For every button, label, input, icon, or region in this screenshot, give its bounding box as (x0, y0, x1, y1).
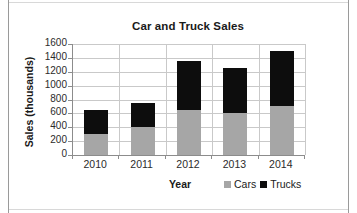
gridline-horizontal (73, 155, 305, 156)
bar-group[interactable] (223, 44, 247, 155)
x-axis-tick-label: 2011 (119, 158, 165, 170)
legend-swatch-icon (224, 181, 231, 188)
bar-segment-cars[interactable] (270, 106, 294, 155)
bar-segment-trucks[interactable] (270, 51, 294, 107)
x-axis-tick-label: 2014 (258, 158, 304, 170)
bar-group[interactable] (177, 44, 201, 155)
x-axis-tick-label: 2013 (211, 158, 257, 170)
chart-figure: Car and Truck Sales Sales (thousands) 02… (0, 0, 357, 213)
x-axis-tick-mark (165, 155, 166, 159)
y-axis-tick-label: 600 (22, 106, 67, 117)
bar-segment-trucks[interactable] (177, 61, 201, 110)
bar-group[interactable] (84, 44, 108, 155)
y-axis-tick-label: 0 (22, 148, 67, 159)
x-axis-tick-mark (304, 155, 305, 159)
bar-segment-cars[interactable] (177, 110, 201, 155)
y-axis-tick-label: 400 (22, 120, 67, 131)
gridline-vertical (259, 44, 260, 155)
y-axis-tick-label: 1200 (22, 65, 67, 76)
chart-legend: CarsTrucks (224, 179, 301, 190)
bar-segment-trucks[interactable] (131, 103, 155, 127)
x-axis-tick-labels: 20102011201220132014 (72, 158, 304, 174)
x-axis-tick-label: 2010 (72, 158, 118, 170)
legend-item-cars[interactable]: Cars (224, 179, 256, 190)
gridline-vertical (305, 44, 306, 155)
y-axis-tick-label: 200 (22, 134, 67, 145)
bar-segment-trucks[interactable] (223, 68, 247, 113)
x-axis-tick-mark (72, 155, 73, 159)
x-axis-label: Year (150, 178, 210, 190)
figure-border-bottom (8, 209, 349, 210)
x-axis-tick-mark (118, 155, 119, 159)
bar-group[interactable] (131, 44, 155, 155)
x-axis-tick-mark (211, 155, 212, 159)
legend-label: Trucks (270, 179, 301, 190)
figure-border-top (8, 2, 349, 3)
gridline-vertical (212, 44, 213, 155)
bar-segment-cars[interactable] (84, 134, 108, 155)
bar-segment-cars[interactable] (131, 127, 155, 155)
plot-area (72, 44, 304, 155)
legend-item-trucks[interactable]: Trucks (260, 179, 301, 190)
x-axis-tick-mark (258, 155, 259, 159)
bar-segment-cars[interactable] (223, 113, 247, 155)
x-axis-tick-label: 2012 (165, 158, 211, 170)
y-axis-tick-label: 1600 (22, 37, 67, 48)
gridline-vertical (166, 44, 167, 155)
y-axis-tick-label: 800 (22, 93, 67, 104)
legend-swatch-icon (260, 181, 267, 188)
y-axis-tick-label: 1400 (22, 51, 67, 62)
legend-label: Cars (234, 179, 256, 190)
y-axis-tick-label: 1000 (22, 79, 67, 90)
gridline-vertical (119, 44, 120, 155)
bar-segment-trucks[interactable] (84, 110, 108, 134)
bar-group[interactable] (270, 44, 294, 155)
chart-title: Car and Truck Sales (72, 20, 304, 32)
